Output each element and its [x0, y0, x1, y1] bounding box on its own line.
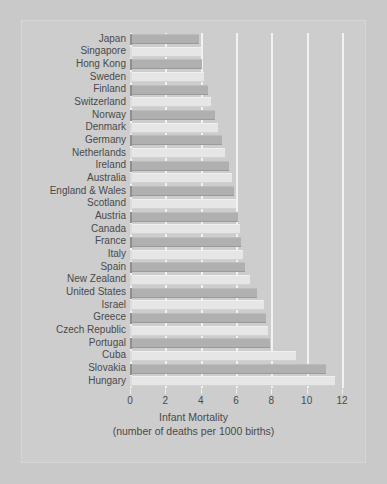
bar-row	[130, 249, 342, 261]
bar-start-cap	[130, 148, 132, 159]
x-tick-label: 0	[120, 395, 140, 407]
category-label: Hungary	[28, 375, 126, 386]
bar-start-cap	[130, 250, 132, 261]
bar-row	[130, 312, 342, 324]
category-label: Israel	[28, 299, 126, 310]
bar-row	[130, 46, 342, 58]
bar	[130, 338, 270, 347]
bar-start-cap	[130, 313, 132, 324]
bar	[130, 300, 264, 309]
category-label: Slovakia	[28, 362, 126, 373]
x-tick	[271, 389, 272, 394]
bar-row	[130, 134, 342, 146]
bar	[130, 364, 326, 373]
bar	[130, 34, 199, 43]
x-tick-label: 10	[297, 395, 317, 407]
bar-row	[130, 337, 342, 349]
x-tick-label: 4	[191, 395, 211, 407]
category-label: England & Wales	[28, 185, 126, 196]
x-axis-subtitle: (number of deaths per 1000 births)	[0, 425, 387, 437]
bar-start-cap	[130, 237, 132, 248]
bar-row	[130, 350, 342, 362]
bar-start-cap	[130, 212, 132, 223]
x-tick	[130, 389, 131, 394]
bar	[130, 47, 201, 56]
category-label: Finland	[28, 83, 126, 94]
x-tick	[201, 389, 202, 394]
bar-start-cap	[130, 224, 132, 235]
bar-start-cap	[130, 47, 132, 58]
bar	[130, 326, 268, 335]
bar-row	[130, 274, 342, 286]
category-label: Austria	[28, 210, 126, 221]
bar	[130, 262, 245, 271]
bar	[130, 250, 243, 259]
category-label: Sweden	[28, 71, 126, 82]
category-label: Norway	[28, 109, 126, 120]
category-label: Hong Kong	[28, 58, 126, 69]
bar-row	[130, 185, 342, 197]
bar	[130, 173, 232, 182]
category-label: Czech Republic	[28, 324, 126, 335]
x-tick	[342, 389, 343, 394]
bar-start-cap	[130, 123, 132, 134]
category-label: New Zealand	[28, 273, 126, 284]
bar	[130, 161, 229, 170]
bar	[130, 123, 218, 132]
bar	[130, 186, 234, 195]
bar-start-cap	[130, 186, 132, 197]
bar	[130, 72, 204, 81]
bar-series	[130, 33, 342, 388]
infant-mortality-chart: JapanSingaporeHong KongSwedenFinlandSwit…	[0, 0, 387, 484]
bar	[130, 224, 240, 233]
category-label: Japan	[28, 33, 126, 44]
category-label: Greece	[28, 311, 126, 322]
category-label: Scotland	[28, 197, 126, 208]
bar-start-cap	[130, 199, 132, 210]
category-label: Spain	[28, 261, 126, 272]
category-label: Ireland	[28, 159, 126, 170]
bar-start-cap	[130, 173, 132, 184]
bar-row	[130, 299, 342, 311]
bar-start-cap	[130, 59, 132, 70]
bar-row	[130, 198, 342, 210]
bar-start-cap	[130, 376, 132, 387]
bar-row	[130, 147, 342, 159]
bar	[130, 110, 215, 119]
bar-row	[130, 96, 342, 108]
bar-start-cap	[130, 364, 132, 375]
bar	[130, 97, 211, 106]
x-tick	[236, 389, 237, 394]
bar-row	[130, 325, 342, 337]
bar-row	[130, 58, 342, 70]
category-axis-labels: JapanSingaporeHong KongSwedenFinlandSwit…	[28, 33, 126, 388]
bar-row	[130, 363, 342, 375]
category-label: France	[28, 235, 126, 246]
category-label: Germany	[28, 134, 126, 145]
bar-start-cap	[130, 85, 132, 96]
bar-row	[130, 287, 342, 299]
bar-start-cap	[130, 338, 132, 349]
bar	[130, 376, 335, 385]
bar-start-cap	[130, 110, 132, 121]
bar	[130, 212, 238, 221]
bar-start-cap	[130, 300, 132, 311]
bar	[130, 237, 241, 246]
bar	[130, 275, 250, 284]
x-axis-title: Infant Mortality	[0, 411, 387, 423]
category-label: Denmark	[28, 121, 126, 132]
bar	[130, 199, 236, 208]
category-label: Cuba	[28, 349, 126, 360]
bar-start-cap	[130, 288, 132, 299]
bar-row	[130, 84, 342, 96]
x-tick	[165, 389, 166, 394]
category-label: Portugal	[28, 337, 126, 348]
gridline-12	[342, 33, 344, 388]
bar-start-cap	[130, 326, 132, 337]
bar	[130, 85, 208, 94]
bar-start-cap	[130, 262, 132, 273]
bar-row	[130, 71, 342, 83]
category-label: Australia	[28, 172, 126, 183]
bar-row	[130, 223, 342, 235]
bar-start-cap	[130, 135, 132, 146]
